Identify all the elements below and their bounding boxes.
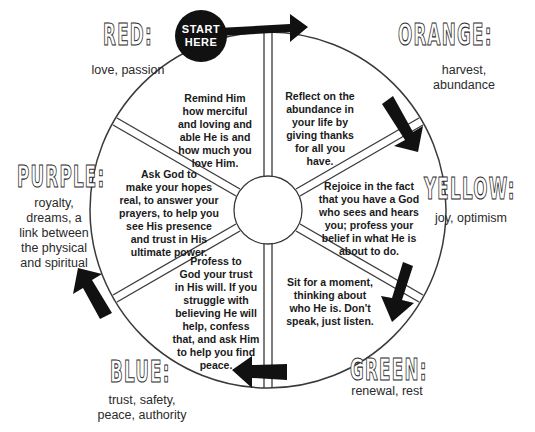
segment-line: God your trust xyxy=(168,268,264,281)
segment-green-prayer: Sit for a moment, thinking about who He … xyxy=(275,276,385,328)
meaning-line: dreams, a xyxy=(18,211,90,226)
color-title-purple: PURPLE: xyxy=(17,162,105,192)
segment-line: how merciful xyxy=(170,105,260,118)
segment-line: peace. xyxy=(168,359,264,372)
color-title-yellow: YELLOW: xyxy=(424,174,516,204)
segment-line: Reflect on the xyxy=(270,90,370,103)
segment-line: you; profess your xyxy=(310,219,428,232)
segment-line: struggle with xyxy=(168,294,264,307)
segment-purple-prayer: Ask God to make your hopes real, to answ… xyxy=(108,168,230,259)
segment-line: to help you find xyxy=(168,346,264,359)
segment-line: how much you xyxy=(170,144,260,157)
segment-line: able He is and xyxy=(170,131,260,144)
meaning-line: peace, authority xyxy=(92,408,192,423)
segment-line: and loving and xyxy=(170,118,260,131)
meaning-line: the physical xyxy=(18,241,90,256)
color-title-green: GREEN: xyxy=(350,355,428,385)
segment-line: who sees and hears xyxy=(310,206,428,219)
segment-red-prayer: Remind Him how merciful and loving and a… xyxy=(170,92,260,170)
here-label: HERE xyxy=(175,36,227,49)
segment-line: Sit for a moment, xyxy=(275,276,385,289)
color-meaning-yellow: joy, optimism xyxy=(428,211,514,226)
segment-line: in His will. If you xyxy=(168,281,264,294)
arrow-down-right-icon xyxy=(382,96,423,152)
segment-line: Ask God to xyxy=(108,168,230,181)
segment-line: your life by xyxy=(270,116,370,129)
segment-orange-prayer: Reflect on the abundance in your life by… xyxy=(270,90,370,168)
meaning-line: trust, safety, xyxy=(92,393,192,408)
segment-line: that, and ask Him xyxy=(168,333,264,346)
segment-line: that you have a God xyxy=(310,193,428,206)
meaning-line: and spiritual xyxy=(18,256,90,271)
segment-line: make your hopes xyxy=(108,181,230,194)
segment-line: have. xyxy=(270,155,370,168)
arrow-right-icon xyxy=(218,14,308,42)
segment-yellow-prayer: Rejoice in the fact that you have a God … xyxy=(310,180,428,258)
color-title-orange: ORANGE: xyxy=(398,20,493,50)
segment-line: see His presence xyxy=(108,220,230,233)
segment-line: Rejoice in the fact xyxy=(310,180,428,193)
color-title-red: RED: xyxy=(103,20,153,50)
color-meaning-purple: royalty, dreams, a link between the phys… xyxy=(18,196,90,271)
segment-line: abundance in xyxy=(270,103,370,116)
meaning-line: abundance xyxy=(424,78,504,93)
segment-line: belief in what He is xyxy=(310,232,428,245)
segment-line: who He is. Don't xyxy=(275,302,385,315)
segment-line: for all you xyxy=(270,142,370,155)
meaning-line: harvest, xyxy=(424,63,504,78)
segment-line: thinking about xyxy=(275,289,385,302)
segment-line: speak, just listen. xyxy=(275,315,385,328)
meaning-line: link between xyxy=(18,226,90,241)
segment-line: believing He will xyxy=(168,307,264,320)
color-meaning-red: love, passion xyxy=(88,63,168,78)
arrow-up-left-icon xyxy=(73,268,112,319)
start-label: START xyxy=(175,23,227,36)
segment-line: prayers, to help you xyxy=(108,207,230,220)
color-title-blue: BLUE: xyxy=(110,357,171,387)
segment-line: ultimate power. xyxy=(108,246,230,259)
segment-line: and trust in His xyxy=(108,233,230,246)
arrow-down-left-icon xyxy=(381,262,414,322)
color-meaning-orange: harvest, abundance xyxy=(424,63,504,93)
segment-blue-prayer: Profess to God your trust in His will. I… xyxy=(168,255,264,372)
color-meaning-blue: trust, safety, peace, authority xyxy=(92,393,192,423)
segment-line: about to do. xyxy=(310,245,428,258)
segment-line: giving thanks xyxy=(270,129,370,142)
segment-line: real, to answer your xyxy=(108,194,230,207)
color-meaning-green: renewal, rest xyxy=(346,384,428,399)
segment-line: Remind Him xyxy=(170,92,260,105)
start-here-badge: START HERE xyxy=(175,10,227,62)
segment-line: help, confess xyxy=(168,320,264,333)
meaning-line: royalty, xyxy=(18,196,90,211)
